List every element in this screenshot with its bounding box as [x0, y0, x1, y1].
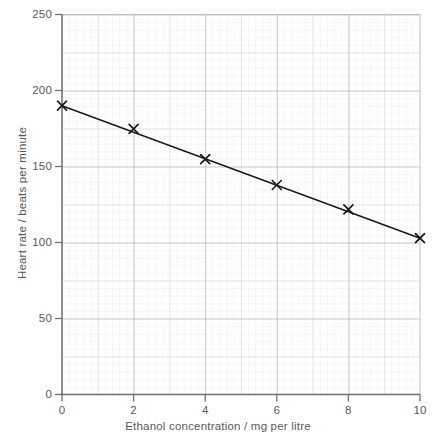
- y-tick-label-50: 50: [10, 312, 52, 324]
- x-axis-ticks: [62, 395, 420, 402]
- x-axis-title: Ethanol concentration / mg per litre: [0, 420, 436, 432]
- y-tick-label-0: 0: [10, 388, 52, 400]
- x-tick-label-0: 0: [42, 404, 82, 416]
- x-tick-label-8: 8: [328, 404, 368, 416]
- grid-major: [62, 15, 420, 395]
- y-tick-label-250: 250: [10, 8, 52, 20]
- y-tick-label-200: 200: [10, 84, 52, 96]
- y-axis-title: Heart rate / beats per minute: [16, 103, 28, 303]
- x-tick-label-4: 4: [185, 404, 225, 416]
- y-axis-ticks: [55, 15, 62, 395]
- x-tick-label-10: 10: [400, 404, 436, 416]
- plot-canvas: [0, 0, 436, 442]
- x-tick-label-6: 6: [257, 404, 297, 416]
- heart-rate-vs-ethanol-chart: 250 200 150 100 50 0 0 2 4 6 8 10 Ethano…: [0, 0, 436, 442]
- x-tick-label-2: 2: [114, 404, 154, 416]
